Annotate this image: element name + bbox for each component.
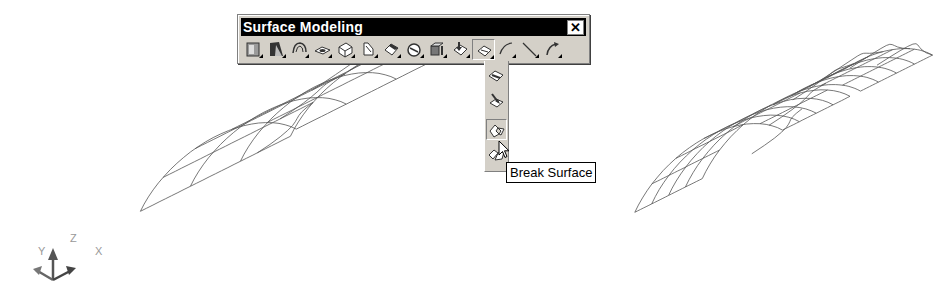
rotate-surface-icon xyxy=(405,40,425,59)
ucs-z-label: Z xyxy=(70,232,77,244)
planar-surface-icon xyxy=(313,40,333,59)
blend-surface-icon xyxy=(382,40,402,59)
curve-tool-button[interactable] xyxy=(495,39,518,60)
rotate-surface-tool-button[interactable] xyxy=(403,39,426,60)
edit-surface-tool-button[interactable] xyxy=(449,39,472,60)
untrim-surface-icon xyxy=(487,92,506,110)
fillet-tool-button[interactable] xyxy=(541,39,564,60)
layout-surface-tool-button[interactable] xyxy=(242,39,265,60)
revolve-surface-icon xyxy=(290,40,310,59)
line-icon xyxy=(520,40,540,59)
ucs-y-label: Y xyxy=(38,245,45,257)
toolbar-title: Surface Modeling xyxy=(243,19,363,35)
close-button[interactable]: ✕ xyxy=(567,20,584,35)
flyout-break-surface-button[interactable] xyxy=(486,119,507,140)
surface-modeling-toolbar[interactable]: Surface Modeling ✕ xyxy=(237,14,590,64)
trim-surface-icon xyxy=(475,41,495,60)
line-tool-button[interactable] xyxy=(518,39,541,60)
toolbar-titlebar[interactable]: Surface Modeling ✕ xyxy=(241,18,586,36)
flyout-trim-surface-button[interactable] xyxy=(486,66,507,87)
curve-icon xyxy=(497,40,517,59)
planar-surface-tool-button[interactable] xyxy=(311,39,334,60)
fillet-icon xyxy=(543,40,563,59)
trim-surface-tool-button[interactable] xyxy=(472,39,495,60)
mouse-cursor-icon xyxy=(498,140,512,160)
offset-surface-tool-button[interactable] xyxy=(334,39,357,60)
revolve-surface-tool-button[interactable] xyxy=(288,39,311,60)
primitive-surface-tool-button[interactable] xyxy=(265,39,288,60)
sweep-surface-icon xyxy=(359,40,379,59)
break-surface-icon xyxy=(488,121,507,139)
sweep-surface-tool-button[interactable] xyxy=(357,39,380,60)
surface-layout-icon xyxy=(244,40,264,59)
extrude-surface-tool-button[interactable] xyxy=(426,39,449,60)
extrude-surface-icon xyxy=(428,40,448,59)
trim-surface-icon xyxy=(487,67,506,85)
offset-surface-icon xyxy=(336,40,356,59)
ucs-x-label: X xyxy=(95,245,102,257)
tooltip: Break Surface xyxy=(506,162,596,183)
edit-surface-icon xyxy=(451,40,471,59)
blend-surface-tool-button[interactable] xyxy=(380,39,403,60)
ucs-icon: Y Z X xyxy=(30,228,120,288)
flyout-untrim-surface-button[interactable] xyxy=(486,91,507,112)
primitive-surface-icon xyxy=(267,40,287,59)
toolbar-icon-row xyxy=(242,39,564,60)
